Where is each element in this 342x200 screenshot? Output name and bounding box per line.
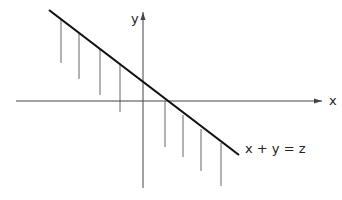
vertical-stems — [61, 19, 221, 186]
x-axis-arrowhead — [314, 99, 322, 104]
line-equation-label: x + y = z — [245, 141, 306, 156]
diagram-canvas: y x x + y = z — [0, 0, 342, 200]
y-axis-label: y — [131, 11, 139, 26]
y-axis-arrowhead — [141, 12, 146, 20]
plane-line — [49, 10, 239, 155]
x-axis-label: x — [329, 93, 337, 108]
